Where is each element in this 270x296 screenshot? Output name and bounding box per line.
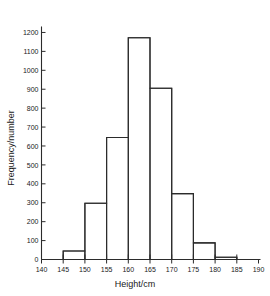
x-tick-label: 155 <box>101 266 113 273</box>
x-tick-label: 180 <box>209 266 221 273</box>
y-axis-title: Frequency/number <box>6 110 16 186</box>
x-axis-title: Height/cm <box>115 279 156 289</box>
x-tick-label: 160 <box>122 266 134 273</box>
x-tick-label: 185 <box>231 266 243 273</box>
y-tick-label: 1200 <box>23 29 39 36</box>
y-tick-label: 1000 <box>23 67 39 74</box>
y-tick-label: 900 <box>27 86 39 93</box>
x-tick-label: 145 <box>57 266 69 273</box>
histogram-chart: 0100200300400500600700800900100011001200… <box>0 0 270 296</box>
y-tick-label: 200 <box>27 218 39 225</box>
x-tick-label: 190 <box>253 266 265 273</box>
y-tick-label: 300 <box>27 199 39 206</box>
x-tick-label: 170 <box>166 266 178 273</box>
y-tick-label: 500 <box>27 162 39 169</box>
y-tick-label: 0 <box>35 256 39 263</box>
y-tick-label: 1100 <box>23 48 38 55</box>
chart-canvas: 0100200300400500600700800900100011001200… <box>0 0 270 296</box>
x-tick-label: 165 <box>144 266 156 273</box>
chart-background <box>0 0 270 296</box>
y-tick-label: 800 <box>27 105 39 112</box>
x-tick-label: 140 <box>36 266 48 273</box>
y-tick-label: 400 <box>27 180 39 187</box>
y-tick-label: 600 <box>27 143 39 150</box>
x-tick-label: 150 <box>79 266 91 273</box>
y-tick-label: 700 <box>27 124 39 131</box>
y-tick-label: 100 <box>27 237 39 244</box>
x-tick-label: 175 <box>188 266 200 273</box>
